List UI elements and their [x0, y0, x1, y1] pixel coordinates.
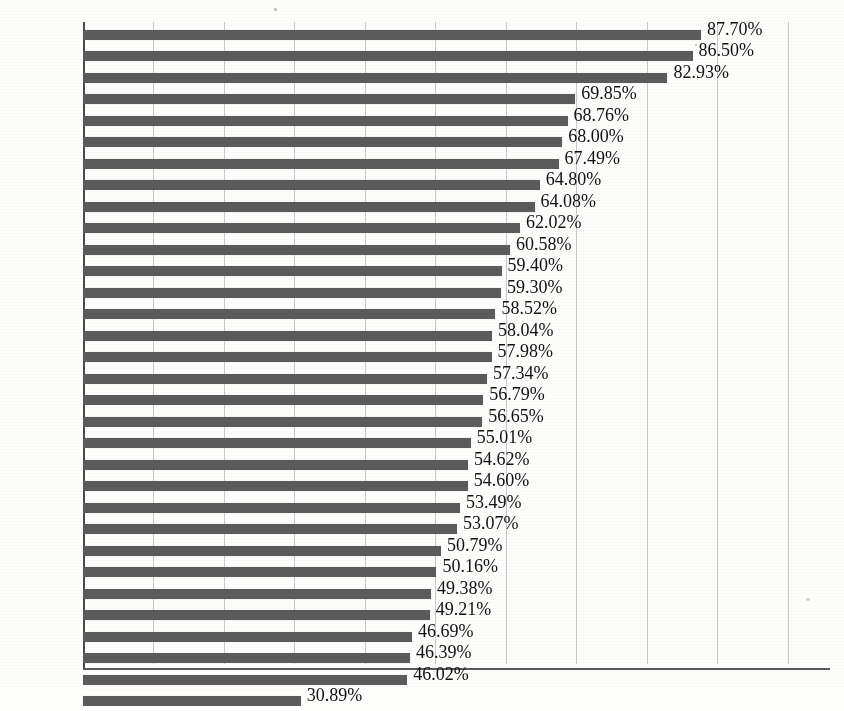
- bar: [83, 653, 410, 663]
- bar-row: 宁夏57.98%: [83, 347, 830, 369]
- bar-row: 江苏68.76%: [83, 110, 830, 132]
- bar-row: 湖北59.30%: [83, 282, 830, 304]
- bar: [83, 94, 575, 104]
- value-label: 64.08%: [541, 192, 597, 210]
- bar-container: 55.01%: [83, 433, 532, 455]
- bar: [83, 309, 495, 319]
- value-label: 46.02%: [413, 665, 469, 683]
- scan-speck: [274, 8, 277, 11]
- bar-row: 吉林56.65%: [83, 411, 830, 433]
- scan-speck: [695, 44, 697, 46]
- value-label: 54.60%: [474, 471, 530, 489]
- bar-row: 全国58.52%: [83, 304, 830, 326]
- bar: [83, 481, 468, 491]
- bar: [83, 288, 501, 298]
- bar: [83, 51, 693, 61]
- bar: [83, 202, 535, 212]
- bar-container: 67.49%: [83, 153, 620, 175]
- bar-row: 山东60.58%: [83, 239, 830, 261]
- bar: [83, 116, 568, 126]
- value-label: 49.21%: [436, 600, 492, 618]
- bar-row: 河北55.01%: [83, 433, 830, 455]
- bar-row: 江西54.60%: [83, 476, 830, 498]
- bar: [83, 73, 667, 83]
- bar-row: 陕西56.79%: [83, 390, 830, 412]
- bar-row: 西藏30.89%: [83, 691, 830, 711]
- bar: [83, 395, 483, 405]
- bar: [83, 589, 431, 599]
- bar-container: 69.85%: [83, 89, 637, 111]
- value-label: 53.49%: [466, 493, 522, 511]
- value-label: 82.93%: [673, 63, 729, 81]
- bar-row: 黑龙江59.40%: [83, 261, 830, 283]
- bar-container: 56.79%: [83, 390, 545, 412]
- value-label: 58.52%: [501, 299, 557, 317]
- bar-row: 辽宁67.49%: [83, 153, 830, 175]
- bar-container: 49.38%: [83, 583, 492, 605]
- bar-container: 86.50%: [83, 46, 754, 68]
- bar-container: 59.30%: [83, 282, 562, 304]
- bar-container: 62.02%: [83, 218, 582, 240]
- scan-speck: [806, 598, 810, 601]
- bar: [83, 245, 510, 255]
- bar-container: 50.16%: [83, 562, 498, 584]
- bar-container: 56.65%: [83, 411, 544, 433]
- bar: [83, 675, 407, 685]
- bar-row: 海南58.04%: [83, 325, 830, 347]
- value-label: 87.70%: [707, 20, 763, 38]
- value-label: 50.16%: [442, 557, 498, 575]
- plot-area: 上海87.70%北京86.50%天津82.93%广东69.85%江苏68.76%…: [83, 22, 830, 668]
- bar-container: 59.40%: [83, 261, 563, 283]
- bar-row: 湖南54.62%: [83, 454, 830, 476]
- value-label: 86.50%: [699, 41, 755, 59]
- bar-row: 安徽53.49%: [83, 497, 830, 519]
- bar-container: 50.79%: [83, 540, 502, 562]
- bar-row: 内蒙古62.02%: [83, 218, 830, 240]
- bar: [83, 503, 460, 513]
- value-label: 57.98%: [498, 342, 554, 360]
- value-label: 49.38%: [437, 579, 493, 597]
- value-label: 68.00%: [568, 127, 624, 145]
- value-label: 58.04%: [498, 321, 554, 339]
- value-label: 46.69%: [418, 622, 474, 640]
- bar-container: 58.52%: [83, 304, 557, 326]
- bar: [83, 159, 559, 169]
- bar: [83, 30, 701, 40]
- bar-container: 54.62%: [83, 454, 529, 476]
- bar-container: 87.70%: [83, 24, 763, 46]
- bar: [83, 546, 441, 556]
- value-label: 62.02%: [526, 213, 582, 231]
- value-label: 46.39%: [416, 643, 472, 661]
- bar: [83, 460, 468, 470]
- value-label: 57.34%: [493, 364, 549, 382]
- value-label: 60.58%: [516, 235, 572, 253]
- value-label: 30.89%: [307, 686, 363, 704]
- bar: [83, 567, 436, 577]
- bar: [83, 352, 492, 362]
- bar-row: 重庆64.08%: [83, 196, 830, 218]
- bar: [83, 180, 540, 190]
- bar-container: 58.04%: [83, 325, 554, 347]
- bar: [83, 610, 430, 620]
- bar-container: 60.58%: [83, 239, 571, 261]
- value-label: 50.79%: [447, 536, 503, 554]
- bar-row: 福建64.80%: [83, 175, 830, 197]
- bar: [83, 438, 471, 448]
- bar: [83, 696, 301, 706]
- bar-container: 68.76%: [83, 110, 629, 132]
- value-label: 64.80%: [546, 170, 602, 188]
- bar-row: 浙江68.00%: [83, 132, 830, 154]
- bar: [83, 266, 502, 276]
- bar-container: 68.00%: [83, 132, 624, 154]
- bar-container: 54.60%: [83, 476, 529, 498]
- bar: [83, 524, 457, 534]
- bar-container: 64.80%: [83, 175, 601, 197]
- value-label: 54.62%: [474, 450, 530, 468]
- bar: [83, 374, 487, 384]
- bar-container: 30.89%: [83, 691, 362, 711]
- bar-container: 57.34%: [83, 368, 549, 390]
- bar: [83, 331, 492, 341]
- bar-container: 46.02%: [83, 669, 469, 691]
- value-label: 56.65%: [488, 407, 544, 425]
- value-label: 55.01%: [477, 428, 533, 446]
